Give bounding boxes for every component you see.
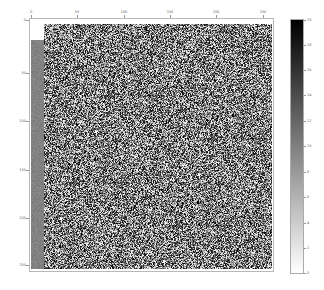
x-tick-mark: [170, 15, 171, 18]
y-tick-mark: [26, 73, 29, 74]
x-tick-mark: [216, 15, 217, 18]
colorbar-tick-label: 6: [307, 195, 309, 199]
x-tick-mark: [124, 15, 125, 18]
colorbar-tick-label: 4: [307, 221, 309, 225]
heatmap-image: [31, 24, 272, 269]
x-tick-mark: [77, 15, 78, 18]
x-tick-label: 0: [30, 10, 32, 14]
colorbar-tick-mark: [304, 197, 306, 198]
y-tick-label: 0: [24, 18, 26, 22]
colorbar-tick-label: 14: [307, 93, 311, 97]
colorbar-tick-mark: [304, 20, 306, 21]
colorbar-tick-label: 20: [307, 18, 311, 22]
colorbar-tick-label: 10: [307, 144, 311, 148]
colorbar-tick-mark: [304, 70, 306, 71]
colorbar-tick-label: 18: [307, 43, 311, 47]
y-tick-mark: [26, 20, 29, 21]
y-tick-label: 200: [19, 216, 26, 220]
colorbar-tick-mark: [304, 45, 306, 46]
x-tick-mark: [31, 15, 32, 18]
y-tick-label: 150: [19, 168, 26, 172]
colorbar: [290, 19, 304, 274]
y-tick-mark: [26, 218, 29, 219]
y-tick-label: 250: [19, 263, 26, 267]
x-tick-label: 50: [75, 10, 79, 14]
colorbar-tick-mark: [304, 223, 306, 224]
colorbar-tick-label: 2: [307, 246, 309, 250]
y-tick-label: 100: [19, 119, 26, 123]
colorbar-tick-mark: [304, 146, 306, 147]
colorbar-tick-mark: [304, 172, 306, 173]
colorbar-tick-mark: [304, 121, 306, 122]
y-tick-label: 50: [22, 71, 26, 75]
colorbar-tick-mark: [304, 95, 306, 96]
x-tick-label: 200: [213, 10, 220, 14]
x-tick-mark: [263, 15, 264, 18]
y-tick-mark: [26, 121, 29, 122]
colorbar-tick-label: 12: [307, 119, 311, 123]
colorbar-tick-label: 8: [307, 170, 309, 174]
colorbar-tick-label: 0: [307, 271, 309, 275]
colorbar-tick-mark: [304, 273, 306, 274]
y-tick-mark: [26, 265, 29, 266]
x-tick-label: 100: [121, 10, 128, 14]
colorbar-tick-mark: [304, 248, 306, 249]
colorbar-tick-label: 16: [307, 68, 311, 72]
x-tick-label: 150: [167, 10, 174, 14]
x-tick-label: 250: [260, 10, 267, 14]
y-tick-mark: [26, 170, 29, 171]
